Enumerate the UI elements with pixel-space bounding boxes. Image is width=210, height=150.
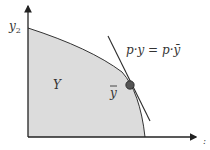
production-diagram: y2 p·y = p·ȳ Y y : (0, 0, 210, 150)
optimal-point-label: y (109, 86, 117, 100)
x-axis-label: : (203, 136, 206, 146)
optimal-point (126, 81, 134, 89)
production-set-label: Y (53, 78, 62, 92)
y-axis-label: y2 (8, 19, 21, 35)
isoprofit-label: p·y = p·ȳ (126, 43, 180, 57)
